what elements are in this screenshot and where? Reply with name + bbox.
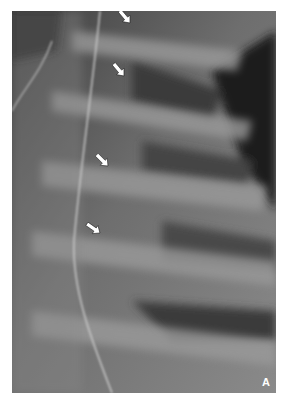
panel-label: A (262, 376, 270, 388)
radiograph-image: A (12, 11, 276, 393)
radiograph-drawing (12, 11, 276, 393)
